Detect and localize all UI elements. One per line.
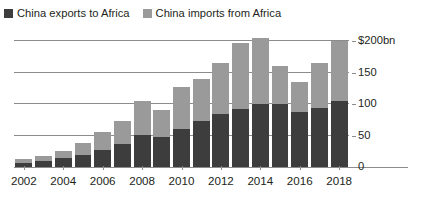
bar-group <box>331 41 348 167</box>
x-tickmark <box>24 166 25 170</box>
x-axis-line <box>14 167 408 168</box>
x-axis-tick-label: 2008 <box>129 174 155 187</box>
bar-segment-exports <box>252 104 269 167</box>
bar-group <box>114 121 131 167</box>
chart-legend: China exports to AfricaChina imports fro… <box>4 5 281 21</box>
y-axis-tick-label: $200bn <box>358 34 395 46</box>
x-tickmark <box>339 166 340 170</box>
legend-entry: China imports from Africa <box>143 8 282 19</box>
y-axis: $200bn150100500 <box>352 0 428 197</box>
legend-label: China imports from Africa <box>156 8 282 19</box>
bar-group <box>134 101 151 167</box>
bar-segment-imports <box>331 41 348 101</box>
bar-group <box>212 63 229 167</box>
legend-swatch-imports <box>143 9 152 18</box>
bar-segment-imports <box>55 151 72 159</box>
y-axis-tick-label: 100 <box>358 97 377 109</box>
x-axis-tick-label: 2012 <box>208 174 234 187</box>
bar-segment-imports <box>252 38 269 105</box>
bar-group <box>193 79 210 167</box>
legend-label: China exports to Africa <box>17 8 130 19</box>
bar-segment-exports <box>311 108 328 167</box>
x-axis-tick-label: 2014 <box>247 174 273 187</box>
legend-entry: China exports to Africa <box>4 8 130 19</box>
bar-segment-exports <box>193 121 210 167</box>
bar-segment-imports <box>311 63 328 108</box>
bar-segment-imports <box>212 63 229 113</box>
y-tickmark <box>352 41 356 42</box>
y-axis-tick-label: 50 <box>358 129 370 141</box>
bar-group <box>232 43 249 167</box>
x-tickmark <box>221 166 222 170</box>
bar-segment-exports <box>331 101 348 167</box>
legend-swatch-exports <box>4 9 13 18</box>
x-axis-tick-label: 2006 <box>90 174 116 187</box>
bar-group <box>291 82 308 167</box>
x-tickmark <box>142 166 143 170</box>
bar-segment-exports <box>75 155 92 167</box>
y-axis-tick-label: 150 <box>358 66 377 78</box>
bar-segment-exports <box>134 135 151 167</box>
y-tickmark <box>352 104 356 105</box>
x-axis-tick-label: 2016 <box>287 174 313 187</box>
bar-segment-exports <box>291 112 308 167</box>
bar-series-container <box>14 35 349 167</box>
bar-segment-imports <box>114 121 131 144</box>
bar-group <box>94 132 111 167</box>
x-tickmark <box>103 166 104 170</box>
y-tickmark <box>352 73 356 74</box>
bar-segment-exports <box>212 114 229 167</box>
bar-segment-imports <box>291 82 308 112</box>
bar-segment-exports <box>153 137 170 167</box>
bar-segment-imports <box>94 132 111 150</box>
bar-segment-imports <box>232 43 249 109</box>
bar-segment-imports <box>272 66 289 104</box>
x-tickmark <box>182 166 183 170</box>
x-tickmark <box>63 166 64 170</box>
bar-segment-imports <box>173 87 190 128</box>
bar-group <box>153 110 170 167</box>
stacked-bar-chart: China exports to AfricaChina imports fro… <box>0 0 428 197</box>
x-tickmark <box>260 166 261 170</box>
bar-group <box>75 143 92 167</box>
bar-group <box>272 66 289 167</box>
bar-segment-exports <box>94 150 111 167</box>
bar-segment-exports <box>272 104 289 167</box>
bar-group <box>173 87 190 167</box>
bar-segment-exports <box>114 144 131 167</box>
bar-segment-imports <box>75 143 92 155</box>
x-axis-tick-label: 2004 <box>50 174 76 187</box>
bar-group <box>311 63 328 167</box>
plot-area <box>14 35 349 167</box>
bar-segment-exports <box>232 109 249 167</box>
bar-group <box>55 151 72 167</box>
x-axis-tick-label: 2018 <box>326 174 352 187</box>
bar-segment-imports <box>193 79 210 121</box>
y-tickmark <box>352 167 356 168</box>
bar-segment-exports <box>173 129 190 167</box>
bar-segment-imports <box>134 101 151 135</box>
bar-segment-imports <box>153 110 170 136</box>
bar-group <box>252 38 269 167</box>
x-axis-tick-label: 2002 <box>11 174 37 187</box>
x-axis: 200220042006200820102012201420162018 <box>0 170 428 197</box>
x-tickmark <box>300 166 301 170</box>
y-tickmark <box>352 136 356 137</box>
x-axis-tick-label: 2010 <box>169 174 195 187</box>
bar-group <box>35 156 52 167</box>
